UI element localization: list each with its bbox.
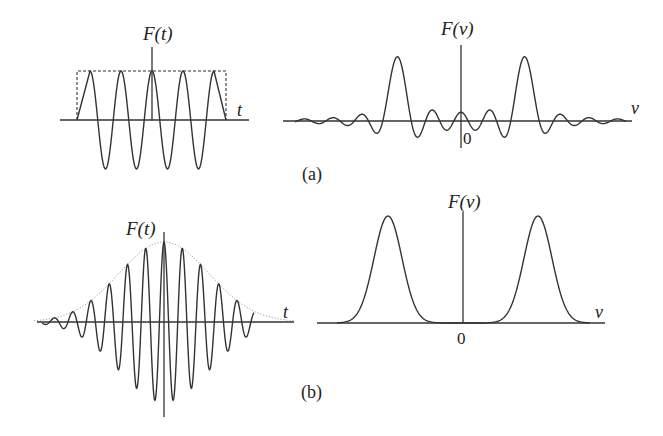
b-time-xlabel: t bbox=[283, 302, 289, 322]
a-spectrum-ylabel: F(ν) bbox=[440, 18, 474, 40]
panel-b-time-plot: F(t) t bbox=[34, 218, 294, 417]
b-spectrum-xlabel: ν bbox=[595, 302, 603, 322]
b-time-ylabel: F(t) bbox=[125, 218, 156, 240]
panel-a-spectrum-plot: F(ν) ν 0 bbox=[283, 18, 639, 148]
a-spectrum-origin-label: 0 bbox=[463, 129, 472, 148]
a-spectrum-xlabel: ν bbox=[631, 98, 639, 118]
figure-canvas: F(t) t F(ν) ν 0 (a) F(t) t F(ν) ν 0 (b) bbox=[0, 0, 663, 436]
a-time-ylabel: F(t) bbox=[142, 23, 173, 45]
panel-a-caption: (a) bbox=[302, 164, 322, 185]
a-time-xlabel: t bbox=[237, 100, 243, 120]
b-wave-packet-curve bbox=[42, 242, 254, 400]
panel-a-time-plot: F(t) t bbox=[60, 23, 249, 169]
b-spectrum-ylabel: F(ν) bbox=[447, 191, 481, 213]
b-spectrum-origin-label: 0 bbox=[457, 329, 466, 348]
panel-b-spectrum-plot: F(ν) ν 0 bbox=[317, 191, 605, 348]
panel-b-caption: (b) bbox=[301, 382, 322, 403]
